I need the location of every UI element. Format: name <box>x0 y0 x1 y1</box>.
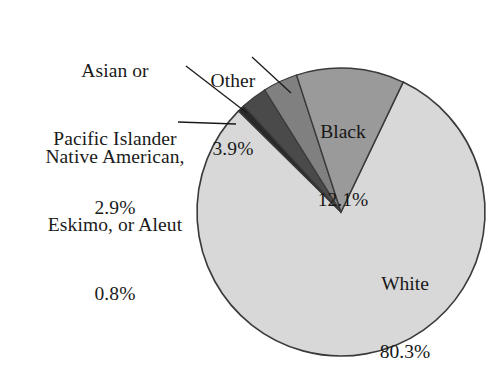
slice-label-other-value: 3.9% <box>190 138 276 161</box>
slice-label-white-line1: White <box>358 273 452 296</box>
slice-label-black-value: 12.1% <box>300 189 386 212</box>
slice-label-white-value: 80.3% <box>358 341 452 364</box>
slice-label-native-value: 0.8% <box>2 283 228 306</box>
slice-label-other: Other 3.9% <box>190 24 276 207</box>
slice-label-native-line2: Eskimo, or Aleut <box>2 214 228 237</box>
pie-chart-figure: Asian or Pacific Islander 2.9% Native Am… <box>0 0 496 384</box>
slice-label-black-line1: Black <box>300 121 386 144</box>
slice-label-white: White 80.3% <box>358 228 452 384</box>
slice-label-other-line1: Other <box>190 70 276 93</box>
